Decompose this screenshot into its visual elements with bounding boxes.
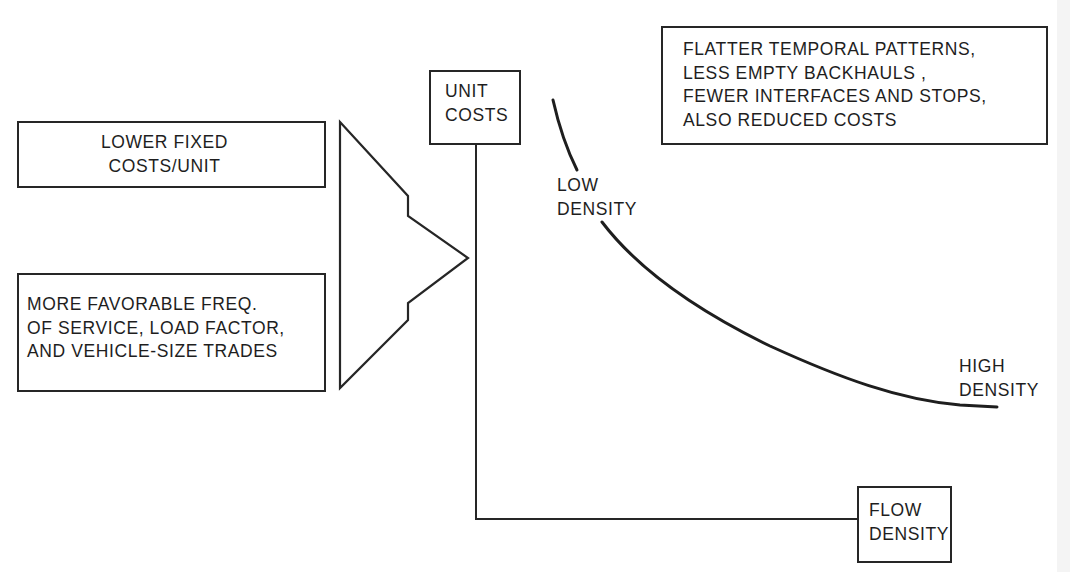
note-box: FLATTER TEMPORAL PATTERNS, LESS EMPTY BA… bbox=[661, 26, 1048, 145]
service-trades-line-1: MORE FAVORABLE FREQ. bbox=[27, 293, 324, 317]
cost-curve-lower-segment bbox=[602, 222, 997, 407]
low-density-label: LOW DENSITY bbox=[557, 174, 637, 221]
y-axis-label-box: UNIT COSTS bbox=[429, 70, 521, 145]
high-density-line-1: HIGH bbox=[959, 355, 1039, 379]
note-line-4: ALSO REDUCED COSTS bbox=[683, 109, 1046, 133]
fixed-costs-box: LOWER FIXED COSTS/UNIT bbox=[17, 121, 326, 188]
high-density-label: HIGH DENSITY bbox=[959, 355, 1039, 402]
high-density-line-2: DENSITY bbox=[959, 379, 1039, 403]
note-line-3: FEWER INTERFACES AND STOPS, bbox=[683, 85, 1046, 109]
service-trades-line-3: AND VEHICLE-SIZE TRADES bbox=[27, 340, 324, 364]
x-axis-label-line-2: DENSITY bbox=[869, 523, 950, 547]
combining-arrow-icon bbox=[340, 122, 468, 388]
fixed-costs-line-2: COSTS/UNIT bbox=[19, 155, 324, 179]
note-line-2: LESS EMPTY BACKHAULS , bbox=[683, 62, 1046, 86]
y-axis-label-line-2: COSTS bbox=[445, 104, 519, 128]
low-density-line-1: LOW bbox=[557, 174, 637, 198]
service-trades-box: MORE FAVORABLE FREQ. OF SERVICE, LOAD FA… bbox=[17, 273, 326, 392]
fixed-costs-line-1: LOWER FIXED bbox=[19, 131, 324, 155]
y-axis-label-line-1: UNIT bbox=[445, 80, 519, 104]
note-line-1: FLATTER TEMPORAL PATTERNS, bbox=[683, 38, 1046, 62]
cost-curve-upper-segment bbox=[553, 100, 577, 170]
x-axis-label-line-1: FLOW bbox=[869, 499, 950, 523]
low-density-line-2: DENSITY bbox=[557, 198, 637, 222]
service-trades-line-2: OF SERVICE, LOAD FACTOR, bbox=[27, 317, 324, 341]
x-axis-label-box: FLOW DENSITY bbox=[857, 486, 952, 563]
